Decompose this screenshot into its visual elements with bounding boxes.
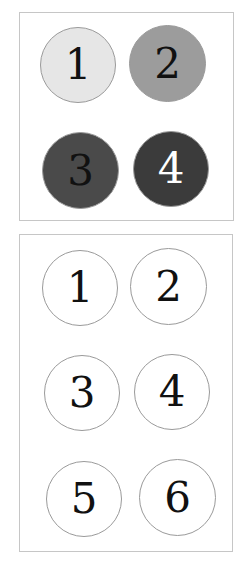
bottom-circle-4: 4 [134, 354, 210, 430]
bottom-circle-3: 3 [44, 355, 120, 431]
circle-number: 5 [71, 478, 98, 520]
bottom-circle-5: 5 [46, 461, 122, 537]
circle-number: 4 [159, 371, 186, 413]
circle-number: 2 [154, 43, 181, 85]
top-circle-3: 3 [42, 132, 119, 209]
circle-number: 2 [155, 266, 182, 308]
circle-number: 4 [158, 148, 185, 190]
circle-number: 3 [69, 372, 96, 414]
circle-number: 1 [67, 267, 94, 309]
circle-number: 3 [67, 150, 94, 192]
top-circle-2: 2 [129, 25, 206, 102]
bottom-circle-2: 2 [130, 248, 207, 325]
circle-number: 1 [65, 44, 92, 86]
bottom-circle-1: 1 [42, 250, 118, 326]
circle-number: 6 [164, 477, 191, 519]
top-circle-1: 1 [40, 27, 116, 103]
bottom-circle-6: 6 [139, 459, 216, 536]
top-circle-4: 4 [133, 131, 209, 207]
